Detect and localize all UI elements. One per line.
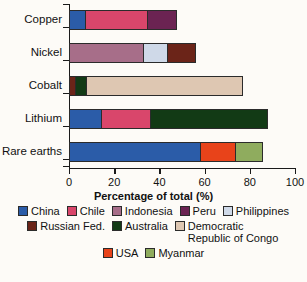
legend-item-chile[interactable]: Chile	[67, 205, 105, 217]
bar-rare-earths	[69, 142, 263, 162]
legend-label: Democratic Republic of Congo	[188, 220, 280, 244]
legend-item-china[interactable]: China	[18, 205, 60, 217]
x-axis-tick	[159, 168, 160, 174]
x-axis-line	[69, 168, 295, 169]
plot-area: CopperNickelCobaltLithiumRare earths	[0, 0, 307, 170]
x-axis-tick	[205, 168, 206, 174]
segment-china	[69, 142, 201, 162]
x-axis-tick-label-20: 20	[108, 176, 120, 188]
legend-item-russian-fed[interactable]: Russian Fed.	[27, 220, 105, 232]
legend-swatch-icon	[112, 221, 122, 231]
legend-label: Peru	[193, 205, 216, 217]
x-axis-tick-label-60: 60	[198, 176, 210, 188]
bar-copper	[69, 10, 177, 30]
y-axis-label-copper: Copper	[24, 14, 62, 25]
y-axis-label-rare-earths: Rare earths	[2, 146, 62, 157]
x-axis-tick	[114, 168, 115, 174]
legend-swatch-icon	[67, 206, 77, 216]
y-axis-label-nickel: Nickel	[31, 47, 62, 58]
segment-australia	[150, 109, 267, 129]
stacked-bar-chart: CopperNickelCobaltLithiumRare earths 020…	[0, 0, 307, 282]
legend-row-2: Russian Fed.AustraliaDemocratic Republic…	[0, 220, 307, 244]
x-axis-title: Percentage of total (%)	[0, 190, 307, 202]
x-axis-tick-label-40: 40	[153, 176, 165, 188]
segment-chile	[85, 10, 148, 30]
bar-cobalt	[69, 76, 243, 96]
legend-label: Philippines	[236, 205, 289, 217]
x-axis-tick-label-100: 100	[286, 176, 304, 188]
legend-swatch-icon	[112, 206, 122, 216]
x-axis-tick-label-0: 0	[66, 176, 72, 188]
bar-series-group	[69, 0, 295, 170]
legend-swatch-icon	[180, 206, 190, 216]
legend-item-australia[interactable]: Australia	[112, 220, 168, 232]
legend-label: Australia	[125, 220, 168, 232]
legend-row-3: USAMyanmar	[0, 247, 307, 259]
segment-peru	[147, 10, 177, 30]
bar-nickel	[69, 43, 196, 63]
legend-label: Russian Fed.	[40, 220, 105, 232]
legend-item-democratic-republic-of-congo[interactable]: Democratic Republic of Congo	[175, 220, 280, 244]
legend-label: Myanmar	[158, 247, 204, 259]
x-axis-tick	[295, 168, 296, 174]
legend-swatch-icon	[27, 221, 37, 231]
segment-indonesia	[69, 43, 144, 63]
legend-label: Chile	[80, 205, 105, 217]
legend-swatch-icon	[103, 248, 113, 258]
x-axis-tick	[250, 168, 251, 174]
legend-item-myanmar[interactable]: Myanmar	[145, 247, 204, 259]
legend-item-usa[interactable]: USA	[103, 247, 139, 259]
bar-lithium	[69, 109, 268, 129]
segment-philippines	[143, 43, 169, 63]
segment-russian-fed	[167, 43, 195, 63]
y-axis-category-labels: CopperNickelCobaltLithiumRare earths	[0, 0, 66, 170]
legend-swatch-icon	[18, 206, 28, 216]
segment-china	[69, 109, 102, 129]
legend-label: Indonesia	[125, 205, 173, 217]
chart-legend: ChinaChileIndonesiaPeruPhilippinesRussia…	[0, 205, 307, 262]
segment-china	[69, 10, 86, 30]
x-axis-tick-label-80: 80	[244, 176, 256, 188]
legend-item-indonesia[interactable]: Indonesia	[112, 205, 173, 217]
legend-row-1: ChinaChileIndonesiaPeruPhilippines	[0, 205, 307, 217]
segment-myanmar	[235, 142, 263, 162]
legend-label: China	[31, 205, 60, 217]
segment-usa	[200, 142, 236, 162]
legend-swatch-icon	[145, 248, 155, 258]
segment-democratic-republic-of-congo	[86, 76, 243, 96]
legend-item-philippines[interactable]: Philippines	[223, 205, 289, 217]
legend-label: USA	[116, 247, 139, 259]
x-axis-tick	[69, 168, 70, 174]
segment-chile	[101, 109, 152, 129]
y-axis-label-cobalt: Cobalt	[29, 80, 62, 91]
legend-item-peru[interactable]: Peru	[180, 205, 216, 217]
legend-swatch-icon	[223, 206, 233, 216]
legend-swatch-icon	[175, 221, 185, 231]
y-axis-label-lithium: Lithium	[25, 113, 62, 124]
